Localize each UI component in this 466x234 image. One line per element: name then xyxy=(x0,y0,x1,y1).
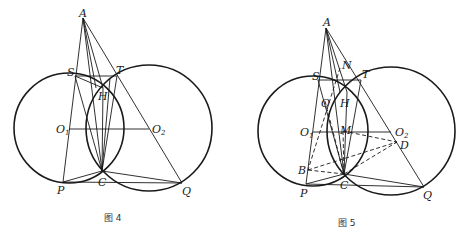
segment-ah xyxy=(83,18,103,88)
caption-figure-4: 图 4 xyxy=(104,213,122,223)
label-n: N xyxy=(341,59,352,72)
label-o1: O1 xyxy=(300,126,314,140)
dashed-bc xyxy=(308,170,344,174)
label-d: D xyxy=(399,139,409,152)
label-m: M xyxy=(339,124,352,137)
label-a: A xyxy=(322,16,331,29)
figure-5: A N S T O H O1 M O2 D B C P Q 图 5 xyxy=(258,16,455,228)
label-c: C xyxy=(340,179,349,192)
label-s: S xyxy=(312,70,320,83)
label-b: B xyxy=(297,164,306,177)
label-o: O xyxy=(321,97,330,110)
segment-ap xyxy=(63,18,83,182)
label-o2: O2 xyxy=(152,123,166,137)
label-h: H xyxy=(97,90,108,103)
dashed-cd xyxy=(344,142,397,174)
segment-pq xyxy=(63,182,182,183)
figure-4: A S T H O1 O2 C P Q 图 4 xyxy=(14,7,212,223)
label-p: P xyxy=(56,184,65,197)
label-s: S xyxy=(67,66,75,79)
dashed-bd xyxy=(308,142,397,170)
label-p: P xyxy=(299,187,308,200)
caption-figure-5: 图 5 xyxy=(338,218,356,228)
label-o1: O1 xyxy=(56,123,70,137)
label-c: C xyxy=(98,176,107,189)
label-q: Q xyxy=(423,189,432,202)
label-o2: O2 xyxy=(395,126,409,140)
geometry-figures: A S T H O1 O2 C P Q 图 4 A N xyxy=(0,0,466,234)
label-h: H xyxy=(339,97,350,110)
label-a: A xyxy=(78,7,87,20)
label-q: Q xyxy=(182,185,191,198)
dashed-nb xyxy=(308,68,340,170)
